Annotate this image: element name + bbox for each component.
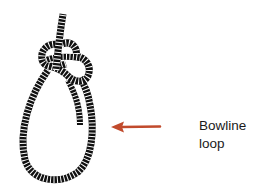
- label-line-2: loop: [199, 135, 246, 153]
- bowline-knot-diagram: [0, 0, 263, 192]
- rope: [23, 14, 92, 180]
- bowline-loop-label: Bowline loop: [199, 117, 246, 153]
- label-line-1: Bowline: [199, 117, 246, 135]
- arrow-icon: [111, 122, 160, 133]
